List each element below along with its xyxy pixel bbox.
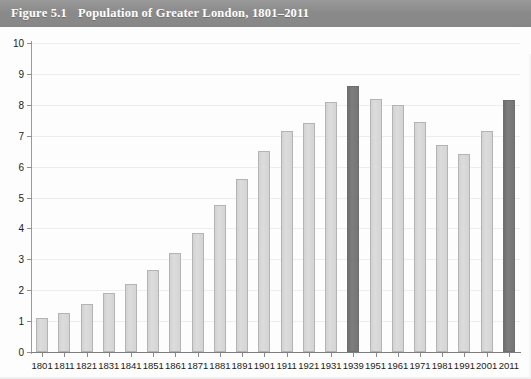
y-tick-9	[27, 74, 32, 75]
y-tick-6	[27, 167, 32, 168]
y-tick-8	[27, 105, 32, 106]
y-axis-labels: 012345678910	[0, 27, 24, 379]
y-tick-label-7: 7	[2, 130, 24, 141]
y-tick-label-0: 0	[2, 347, 24, 358]
x-tick-1841	[131, 353, 132, 357]
y-tick-label-3: 3	[2, 254, 24, 265]
x-tick-2011	[509, 353, 510, 357]
figure-number: Figure 5.1	[11, 6, 67, 21]
x-tick-1861	[175, 353, 176, 357]
x-tick-1801	[42, 353, 43, 357]
figure-title-bar: Figure 5.1 Population of Greater London,…	[0, 0, 531, 27]
x-tick-1911	[287, 353, 288, 357]
x-tick-1961	[398, 353, 399, 357]
x-axis-labels: 1801181118211831184118511861187118811891…	[31, 27, 521, 379]
x-tick-2001	[487, 353, 488, 357]
x-tick-1891	[242, 353, 243, 357]
chart-area: 012345678910 180118111821183118411851186…	[0, 27, 531, 379]
y-tick-1	[27, 321, 32, 322]
x-tick-1951	[376, 353, 377, 357]
x-tick-1851	[153, 353, 154, 357]
y-tick-label-4: 4	[2, 223, 24, 234]
y-tick-label-2: 2	[2, 285, 24, 296]
y-tick-3	[27, 259, 32, 260]
x-tick-1931	[331, 353, 332, 357]
y-tick-7	[27, 136, 32, 137]
y-tick-5	[27, 198, 32, 199]
y-tick-10	[27, 43, 32, 44]
y-tick-4	[27, 228, 32, 229]
x-tick-1811	[64, 353, 65, 357]
x-tick-1991	[464, 353, 465, 357]
y-tick-label-5: 5	[2, 192, 24, 203]
figure-title: Population of Greater London, 1801–2011	[78, 6, 309, 21]
y-tick-0	[27, 352, 32, 353]
x-tick-1921	[309, 353, 310, 357]
x-tick-1971	[420, 353, 421, 357]
y-tick-label-6: 6	[2, 161, 24, 172]
x-tick-1981	[442, 353, 443, 357]
y-tick-2	[27, 290, 32, 291]
x-tick-1881	[220, 353, 221, 357]
x-tick-1871	[198, 353, 199, 357]
y-tick-label-8: 8	[2, 99, 24, 110]
figure-page: Figure 5.1 Population of Greater London,…	[0, 0, 531, 379]
x-tick-1821	[87, 353, 88, 357]
y-tick-label-10: 10	[2, 38, 24, 49]
x-tick-1901	[264, 353, 265, 357]
y-tick-label-1: 1	[2, 316, 24, 327]
x-tick-1831	[109, 353, 110, 357]
y-tick-label-9: 9	[2, 68, 24, 79]
x-tick-label-2011: 2011	[492, 360, 526, 371]
x-tick-1939	[353, 353, 354, 357]
